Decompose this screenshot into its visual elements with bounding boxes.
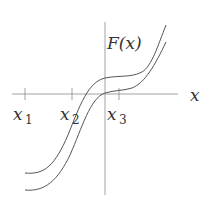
function-plot: F(x) x x 1 x 2 x 3 xyxy=(0,0,211,205)
tick-label-x2: x xyxy=(60,104,70,124)
tick-label-x1-subscript: 1 xyxy=(25,113,33,127)
tick-label-x2-subscript: 2 xyxy=(72,113,80,127)
function-label: F(x) xyxy=(106,33,142,53)
tick-label-x3: x xyxy=(107,104,117,124)
x-axis-label: x xyxy=(190,85,200,105)
tick-label-x1: x xyxy=(13,104,23,124)
upper-curve xyxy=(25,25,166,173)
tick-label-x3-subscript: 3 xyxy=(119,113,127,127)
